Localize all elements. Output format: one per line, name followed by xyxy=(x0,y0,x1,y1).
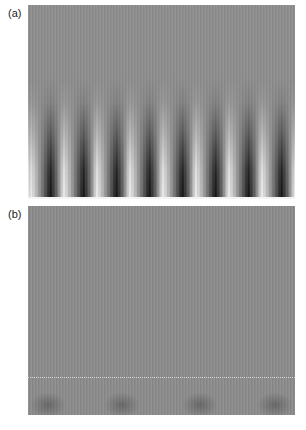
panel-b-label: (b) xyxy=(8,208,21,220)
dotted-line xyxy=(28,377,295,378)
dark-patch xyxy=(104,392,140,415)
panel-b-image xyxy=(28,206,295,415)
texture-overlay xyxy=(28,206,295,415)
dark-patch xyxy=(30,392,66,415)
bottom-boundary xyxy=(28,197,295,199)
texture-overlay xyxy=(28,5,295,199)
panel-a-image xyxy=(28,5,295,199)
dark-patch xyxy=(182,392,218,415)
dark-patch xyxy=(257,392,293,415)
panel-a-label: (a) xyxy=(8,7,21,19)
